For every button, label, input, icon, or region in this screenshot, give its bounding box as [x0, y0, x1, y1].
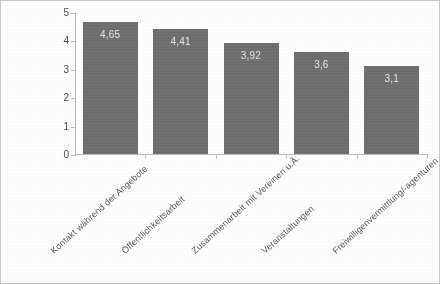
x-axis-category-label: Freiwilligenvermittlung/-agenturen	[330, 156, 440, 256]
x-axis-category-label: Veranstaltungen	[260, 204, 316, 256]
bar-chart-figure: 543210 4,654,413,923,63,1 Kontakt währen…	[0, 0, 440, 284]
x-axis-category-label: Zusammenarbeit mit Vereinen u.Ä.	[190, 153, 302, 255]
x-axis-category-labels: Kontakt während der AngeboteÖffentlichke…	[1, 1, 440, 284]
x-axis-category-label: Öffentlichkeitsarbeit	[119, 194, 186, 256]
